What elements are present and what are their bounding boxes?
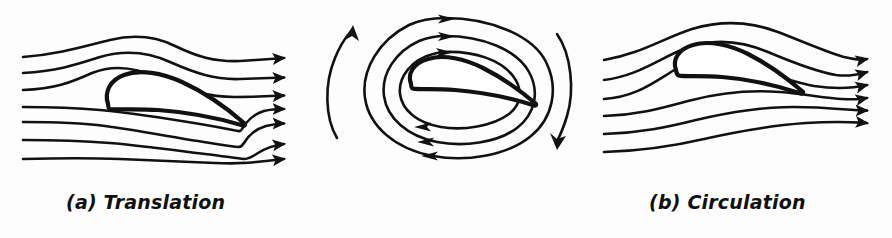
figure-root: (a) Translation	[0, 0, 892, 238]
panel-combined: (c) Combined Translation and Circulation	[592, 0, 892, 238]
panel-circulation-svg	[295, 0, 595, 180]
arc-arrow-down-icon	[550, 133, 566, 150]
panel-circulation: (b) Circulation	[295, 0, 595, 238]
streamline	[23, 37, 284, 62]
caption-line: (a) Translation	[66, 192, 225, 213]
circulation-arc-right	[556, 34, 571, 143]
airfoil-shape	[107, 72, 245, 125]
streamline	[604, 122, 867, 152]
circulation-arc-left	[327, 31, 351, 138]
caption-translation: (a) Translation	[66, 192, 225, 213]
panel-translation: (a) Translation	[0, 0, 300, 238]
airfoil-shape	[675, 43, 803, 94]
panel-combined-svg	[592, 0, 892, 180]
panel-translation-svg	[0, 0, 300, 180]
streamlines-group	[604, 23, 867, 152]
arc-arrow-up-icon	[345, 25, 359, 41]
flow-arrow-icon	[414, 123, 431, 132]
